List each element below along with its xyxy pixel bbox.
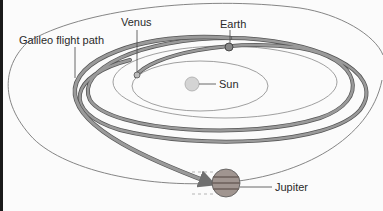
jupiter-label: Jupiter (275, 181, 308, 193)
jupiter-icon (212, 169, 240, 197)
galileo-flight-diagram: Sun Venus Earth Galileo flight path Jupi… (0, 0, 383, 211)
flight-path-label: Galileo flight path (19, 34, 104, 46)
earth-icon (225, 43, 233, 51)
venus-orbit (132, 61, 268, 111)
venus-label: Venus (121, 16, 152, 28)
sun-label: Sun (219, 78, 239, 90)
venus-icon (134, 72, 140, 78)
earth-label: Earth (220, 18, 246, 30)
sun-icon (185, 77, 199, 91)
jupiter-orbit (8, 42, 382, 184)
